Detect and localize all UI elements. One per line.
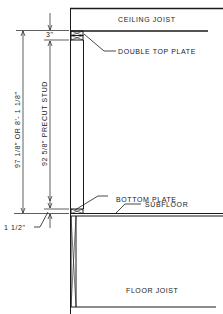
bottom-plate [71, 209, 83, 214]
overall-height-label: 97 1/8" OR 8'- 1 1/8" [14, 92, 21, 169]
floor-joist-label: FLOOR JOIST [126, 287, 179, 294]
double-top-plate [71, 31, 83, 40]
stud-length-label: 92 5/8" PRECUT STUD [41, 81, 48, 166]
ceiling-joist-label: CEILING JOIST [118, 16, 176, 23]
double-top-plate-label: DOUBLE TOP PLATE [118, 48, 196, 55]
wall-framing-diagram: CEILING JOIST DOUBLE TOP PLATE 3" 97 1/8… [0, 0, 223, 314]
top-plate-dimension-label: 3" [46, 31, 54, 38]
bottom-plate-dimension-label: 1 1/2" [4, 224, 26, 231]
subfloor [71, 214, 223, 217]
precut-stud [71, 31, 84, 314]
subfloor-label: SUBFLOOR [145, 201, 188, 208]
